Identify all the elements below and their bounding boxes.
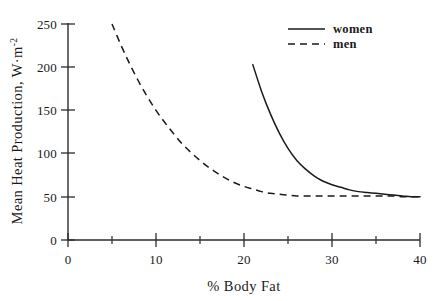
legend-label-women: women [333, 22, 373, 36]
y-axis-title-text: Mean Heat Production, W·m [9, 46, 25, 224]
chart-plot-area: 250 200 150 100 50 0 0 10 20 30 40 % Bod… [0, 0, 444, 301]
series-line-men [112, 24, 420, 197]
x-tick-labels: 0 10 20 30 40 [65, 252, 427, 267]
y-tick-labels: 250 200 150 100 50 0 [37, 17, 57, 248]
x-tick-label: 0 [65, 252, 72, 267]
chart-figure: 250 200 150 100 50 0 0 10 20 30 40 % Bod… [0, 0, 444, 301]
y-tick-label: 0 [50, 233, 57, 248]
y-axis-title-exponent: -2 [9, 38, 19, 47]
y-tick-label: 50 [44, 190, 57, 205]
y-axis-title: Mean Heat Production, W·m-2 [9, 38, 25, 225]
x-tick-label: 10 [149, 252, 162, 267]
x-tick-label: 30 [325, 252, 338, 267]
svg-text:Mean Heat Production, W·m-2: Mean Heat Production, W·m-2 [9, 38, 25, 225]
x-axis-title: % Body Fat [207, 278, 280, 294]
series-line-women [253, 65, 420, 197]
y-tick-label: 250 [37, 17, 57, 32]
legend-label-men: men [333, 37, 357, 51]
x-tick-label: 20 [237, 252, 250, 267]
x-tick-label: 40 [413, 252, 426, 267]
y-tick-label: 150 [37, 103, 57, 118]
y-tick-label: 100 [37, 146, 57, 161]
chart-legend: women men [288, 22, 373, 51]
y-tick-label: 200 [37, 60, 57, 75]
